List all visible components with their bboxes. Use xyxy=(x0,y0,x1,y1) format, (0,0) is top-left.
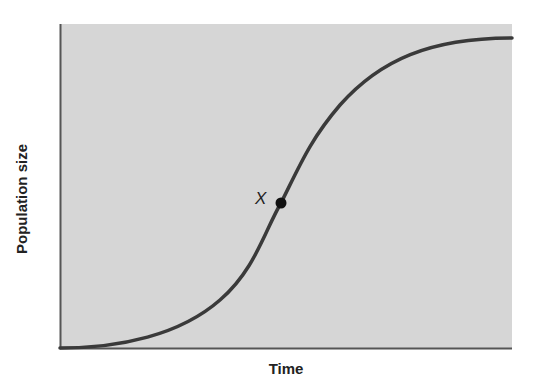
x-axis-label: Time xyxy=(60,360,512,377)
point-x-label: X xyxy=(255,189,266,209)
plot-area xyxy=(60,24,512,349)
logistic-growth-chart xyxy=(0,0,537,390)
y-axis-label: Population size xyxy=(13,99,31,299)
point-x-marker xyxy=(276,198,287,209)
